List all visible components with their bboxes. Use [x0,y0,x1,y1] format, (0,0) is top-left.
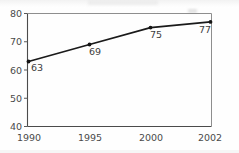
line-chart: 80 70 60 50 40 1990 1995 2000 2002 63 69… [0,0,239,153]
x-axis-labels: 1990 1995 2000 2002 [17,132,222,143]
data-label-1995: 69 [89,46,101,57]
y-axis-label-3: 50 [10,93,22,104]
x-axis-label-2: 2000 [139,132,163,143]
x-axis-label-3: 2002 [198,132,222,143]
data-label-2002: 77 [199,24,211,35]
chart-screenshot: 80 70 60 50 40 1990 1995 2000 2002 63 69… [0,0,239,153]
data-label-1990: 63 [31,62,43,73]
data-label-2000: 75 [150,29,162,40]
plot-frame [28,14,212,127]
x-axis-label-1: 1995 [78,132,102,143]
data-series [27,20,213,63]
y-axis-label-2: 60 [10,65,22,76]
y-axis-label-0: 80 [10,8,22,19]
data-point-1990 [27,60,31,64]
data-point-labels: 63 69 75 77 [31,24,211,73]
series-line-path [29,22,211,62]
y-axis-label-4: 40 [10,121,22,132]
x-axis-label-0: 1990 [17,132,41,143]
y-axis-labels: 80 70 60 50 40 [10,8,22,132]
y-axis-label-1: 70 [10,36,22,47]
